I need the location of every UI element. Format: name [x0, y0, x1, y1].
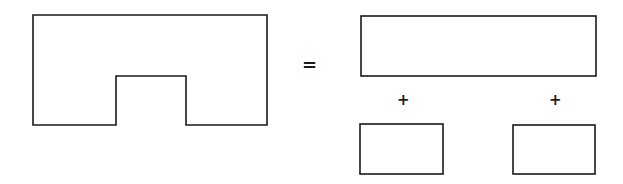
plus-sign-left: +	[397, 93, 410, 108]
notched-shape	[33, 15, 267, 125]
equals-sign: =	[302, 56, 317, 74]
plus-sign-right: +	[549, 93, 562, 108]
bottom-left-rectangle	[360, 124, 443, 174]
top-rectangle	[361, 16, 596, 76]
diagram-canvas	[0, 0, 623, 184]
bottom-right-rectangle	[513, 125, 595, 174]
